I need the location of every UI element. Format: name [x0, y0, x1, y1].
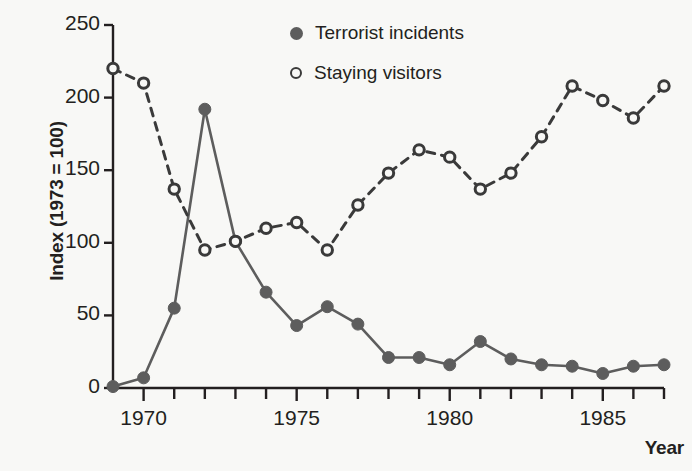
y-tick-label: 0 [20, 374, 100, 398]
open-circle-marker-icon [290, 67, 302, 79]
legend-item-staying-visitors: Staying visitors [290, 62, 442, 84]
x-tick-label: 1970 [99, 406, 189, 430]
y-tick-label: 100 [20, 229, 100, 253]
y-tick-label: 150 [20, 156, 100, 180]
legend-item-terrorist-incidents: Terrorist incidents [290, 22, 464, 44]
x-tick-label: 1975 [252, 406, 342, 430]
x-axis-title: Year [645, 437, 684, 459]
x-tick-label: 1985 [558, 406, 648, 430]
data-series [107, 63, 670, 392]
chart-figure: Index (1973 = 100) Year 050100150200250 … [0, 0, 692, 471]
y-tick-label: 250 [20, 11, 100, 35]
legend-label: Staying visitors [314, 62, 442, 84]
y-tick-label: 200 [20, 84, 100, 108]
filled-circle-marker-icon [290, 27, 303, 40]
x-tick-label: 1980 [405, 406, 495, 430]
legend-label: Terrorist incidents [315, 22, 464, 44]
y-tick-label: 50 [20, 301, 100, 325]
